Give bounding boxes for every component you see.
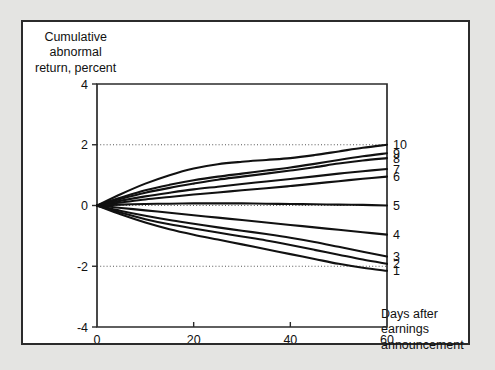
- series-label-1: 1: [393, 264, 400, 278]
- y-tick-label--4: -4: [77, 321, 88, 335]
- series-label-5: 5: [393, 199, 400, 213]
- series-label-4: 4: [393, 228, 400, 242]
- cumulative-abnormal-return-chart: -4-20240204060 10987654321: [23, 22, 468, 343]
- x-tick-label-60: 60: [380, 333, 394, 343]
- x-tick-label-40: 40: [283, 333, 297, 343]
- series-curves: [97, 145, 387, 271]
- x-tick-label-0: 0: [94, 333, 101, 343]
- series-labels: 10987654321: [393, 138, 407, 278]
- tick-labels: -4-20240204060: [77, 78, 394, 344]
- series-label-6: 6: [393, 170, 400, 184]
- y-tick-label--2: -2: [77, 260, 88, 274]
- y-tick-label-0: 0: [81, 199, 88, 213]
- figure-panel: Cumulative abnormal return, percent Days…: [21, 20, 470, 345]
- y-tick-label-2: 2: [81, 138, 88, 152]
- curve-series-8: [97, 158, 387, 205]
- y-tick-label-4: 4: [81, 78, 88, 92]
- x-tick-label-20: 20: [187, 333, 201, 343]
